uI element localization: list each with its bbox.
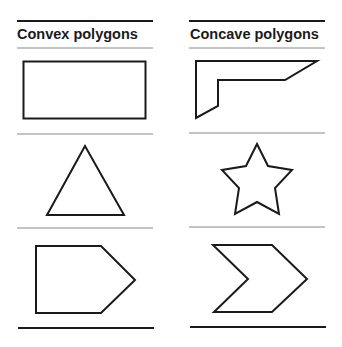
rectangle-shape [24,62,146,119]
polygon-diagram [0,0,342,347]
convex-column-title: Convex polygons [17,26,138,42]
concave-column-title: Concave polygons [190,26,319,42]
l-shaped-polygon-shape [196,61,317,118]
triangle-shape [47,146,124,215]
pentagon-shape [36,246,135,313]
chevron-shape [213,245,307,312]
star-shape [222,144,292,214]
